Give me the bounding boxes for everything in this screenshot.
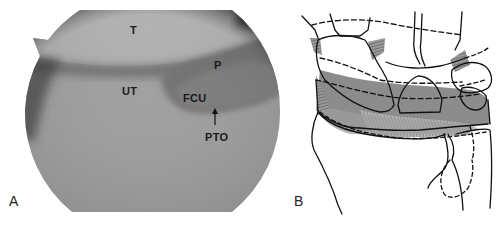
label-pto: PTO (205, 131, 228, 143)
panel-a-arthroscopic-image: T P UT FCU PTO A (0, 0, 285, 225)
panel-b-anatomic-drawing: B (285, 0, 498, 225)
arthroscopic-view (0, 0, 285, 225)
label-ut: UT (122, 85, 137, 97)
panel-letter-a: A (9, 193, 18, 209)
label-p: P (214, 59, 222, 71)
label-t: T (130, 24, 137, 36)
wrist-anatomy-drawing (285, 0, 498, 225)
panel-letter-b: B (294, 193, 303, 209)
label-fcu: FCU (183, 92, 207, 104)
